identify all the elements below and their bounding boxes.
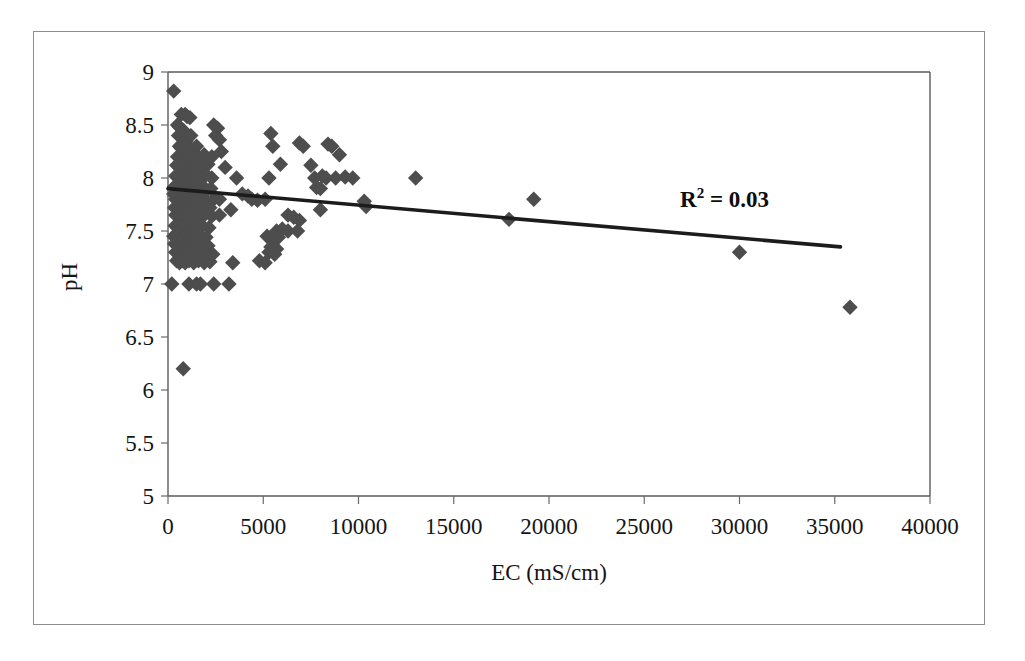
data-point <box>273 157 288 172</box>
y-tick-label: 7 <box>143 272 155 297</box>
y-tick-label: 6.5 <box>125 325 154 350</box>
data-point <box>732 245 747 260</box>
y-axis-title: pH <box>57 263 82 291</box>
chart-svg: 55.566.577.588.59 0500010000150002000025… <box>0 0 1025 661</box>
data-point <box>303 158 318 173</box>
axes <box>168 72 930 496</box>
y-tick-label: 9 <box>143 60 155 85</box>
y-tick-label: 8.5 <box>125 113 154 138</box>
x-tick-label: 25000 <box>616 514 674 539</box>
data-point <box>164 276 179 291</box>
y-tick-label: 7.5 <box>125 219 154 244</box>
y-tick-label: 5.5 <box>125 431 154 456</box>
y-tick-label: 8 <box>143 166 155 191</box>
data-point <box>229 170 244 185</box>
data-point <box>526 192 541 207</box>
data-point <box>221 276 236 291</box>
data-point <box>263 126 278 141</box>
x-tick-label: 30000 <box>711 514 769 539</box>
data-point <box>290 223 305 238</box>
data-point <box>408 170 423 185</box>
scatter-chart: 55.566.577.588.59 0500010000150002000025… <box>0 0 1025 661</box>
x-axis-tick-labels: 0500010000150002000025000300003500040000 <box>162 514 959 539</box>
data-point <box>176 361 191 376</box>
r-squared-annotation: R2 = 0.03 <box>680 185 769 212</box>
data-point <box>842 300 857 315</box>
x-tick-label: 5000 <box>240 514 286 539</box>
x-axis-title: EC (mS/cm) <box>491 560 607 585</box>
x-tick-label: 15000 <box>425 514 483 539</box>
x-tick-label: 40000 <box>901 514 959 539</box>
x-tick-label: 35000 <box>806 514 864 539</box>
x-tick-label: 20000 <box>520 514 578 539</box>
y-axis-tick-labels: 55.566.577.588.59 <box>125 60 154 509</box>
data-point <box>217 160 232 175</box>
data-point <box>206 276 221 291</box>
x-axis-ticks <box>168 496 930 504</box>
x-tick-label: 0 <box>162 514 174 539</box>
y-tick-label: 6 <box>143 378 155 403</box>
y-tick-label: 5 <box>143 484 155 509</box>
data-points <box>164 83 858 376</box>
data-point <box>265 139 280 154</box>
data-point <box>313 202 328 217</box>
data-point <box>261 170 276 185</box>
x-tick-label: 10000 <box>330 514 388 539</box>
data-point <box>225 255 240 270</box>
plot-frame <box>168 72 930 496</box>
figure-page: 55.566.577.588.59 0500010000150002000025… <box>0 0 1025 661</box>
